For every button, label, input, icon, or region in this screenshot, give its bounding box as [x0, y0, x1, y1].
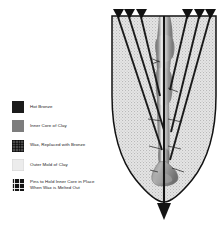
- legend-item-inner-core-of-clay: Inner Core of Clay: [12, 120, 116, 133]
- mold-illustration: [104, 0, 224, 226]
- legend-item-wax-replaced-with-bronze: Wax, Replaced with Bronze: [12, 140, 116, 153]
- flow-arrowhead: [157, 203, 171, 220]
- mold-cross-section-figure: [104, 0, 224, 226]
- legend-label-hot-bronze: Hot Bronze: [30, 101, 53, 109]
- casting-diagram: Hot Bronze Inner Core of Clay Wax, Repla…: [0, 0, 224, 226]
- legend-item-pins-to-hold-inner-core: Pins to Hold Inner Core in Place When Wa…: [12, 179, 116, 196]
- legend-label-wax-replaced-with-bronze: Wax, Replaced with Bronze: [30, 140, 85, 148]
- legend-label-inner-core-of-clay: Inner Core of Clay: [30, 120, 67, 128]
- legend-swatch-inner-core-of-clay: [12, 120, 24, 132]
- legend-label-pins-to-hold-inner-core: Pins to Hold Inner Core in Place When Wa…: [30, 179, 94, 190]
- legend-swatch-wax-replaced-with-bronze: [12, 140, 24, 152]
- legend-item-outer-mold-of-clay: Outer Mold of Clay: [12, 159, 116, 172]
- legend-item-hot-bronze: Hot Bronze: [12, 101, 116, 114]
- legend-swatch-hot-bronze: [12, 101, 24, 113]
- legend-swatch-outer-mold-of-clay: [12, 159, 24, 171]
- legend: Hot Bronze Inner Core of Clay Wax, Repla…: [12, 101, 116, 202]
- legend-label-outer-mold-of-clay: Outer Mold of Clay: [30, 159, 68, 167]
- legend-swatch-pins-to-hold-inner-core: [12, 179, 24, 191]
